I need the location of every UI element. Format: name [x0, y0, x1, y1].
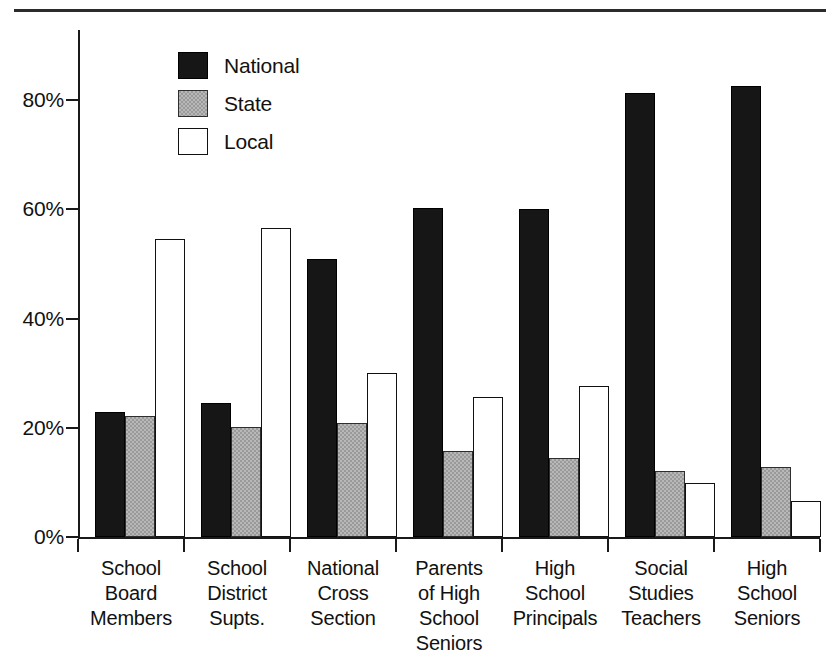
x-category-label-line: Board [78, 581, 184, 606]
legend-item-national[interactable]: National [178, 46, 299, 84]
bar-local [473, 397, 503, 537]
x-tick-mark [183, 539, 185, 552]
x-category-label-line: Seniors [396, 631, 502, 656]
legend-swatch-state-icon [178, 90, 208, 117]
bar-local [155, 239, 185, 537]
bar-national [307, 259, 337, 537]
y-tick-label-text: 40% [2, 308, 64, 329]
bar-national [95, 412, 125, 537]
bar-local [791, 501, 821, 537]
bar-state [655, 471, 685, 537]
x-category-label-line: High [714, 556, 820, 581]
y-tick-mark [66, 536, 79, 538]
x-category-label-line: Social [608, 556, 714, 581]
x-tick-mark [501, 539, 503, 552]
legend-label-state: State [224, 93, 272, 114]
x-category-label-1: SchoolDistrictSupts. [184, 556, 290, 631]
x-category-label-line: Principals [502, 606, 608, 631]
y-tick-label-text: 0% [2, 526, 64, 547]
y-tick-label-0: 0% [0, 526, 64, 547]
x-tick-mark [77, 539, 79, 552]
x-category-label-line: of High [396, 581, 502, 606]
x-category-label-line: Studies [608, 581, 714, 606]
y-tick-label-text: 20% [2, 417, 64, 438]
x-category-label-line: Members [78, 606, 184, 631]
y-tick-label-80: 80% [0, 89, 64, 110]
bar-national [519, 209, 549, 537]
legend-item-local[interactable]: Local [178, 122, 299, 160]
x-category-label-line: Parents [396, 556, 502, 581]
x-category-label-4: HighSchoolPrincipals [502, 556, 608, 631]
y-tick-label-text: 80% [2, 89, 64, 110]
y-tick-label-20: 20% [0, 417, 64, 438]
x-category-label-line: Teachers [608, 606, 714, 631]
bar-state [337, 423, 367, 537]
bar-local [579, 386, 609, 537]
x-category-label-3: Parentsof HighSchoolSeniors [396, 556, 502, 656]
legend-label-national: National [224, 55, 299, 76]
x-category-label-line: District [184, 581, 290, 606]
x-tick-mark [395, 539, 397, 552]
x-category-label-0: SchoolBoardMembers [78, 556, 184, 631]
x-category-label-line: School [714, 581, 820, 606]
x-tick-mark [819, 539, 821, 552]
bar-local [367, 373, 397, 537]
y-tick-label-60: 60% [0, 198, 64, 219]
x-tick-mark [289, 539, 291, 552]
x-tick-mark [607, 539, 609, 552]
chart-page: 0%20%40%60%80% SchoolBoardMembersSchoolD… [0, 0, 838, 657]
y-tick-mark [66, 427, 79, 429]
bar-state [549, 458, 579, 537]
legend-label-local: Local [224, 131, 273, 152]
x-category-label-line: School [396, 606, 502, 631]
x-category-label-line: Cross [290, 581, 396, 606]
x-category-label-2: NationalCrossSection [290, 556, 396, 631]
x-category-label-line: National [290, 556, 396, 581]
bar-chart-plot: 0%20%40%60%80% SchoolBoardMembersSchoolD… [0, 0, 838, 657]
bar-state [443, 451, 473, 537]
y-tick-label-40: 40% [0, 308, 64, 329]
legend-swatch-local-icon [178, 128, 208, 155]
bar-local [685, 483, 715, 537]
x-category-label-line: School [502, 581, 608, 606]
x-category-label-6: HighSchoolSeniors [714, 556, 820, 631]
x-category-label-line: Supts. [184, 606, 290, 631]
bar-national [625, 93, 655, 537]
y-axis-line [78, 30, 80, 539]
bar-national [201, 403, 231, 537]
x-category-label-5: SocialStudiesTeachers [608, 556, 714, 631]
y-tick-mark [66, 208, 79, 210]
legend-swatch-national-icon [178, 52, 208, 79]
y-tick-mark [66, 318, 79, 320]
y-tick-mark [66, 99, 79, 101]
x-category-label-line: High [502, 556, 608, 581]
x-tick-mark [713, 539, 715, 552]
x-category-label-line: School [184, 556, 290, 581]
bar-state [761, 467, 791, 537]
bar-state [231, 427, 261, 537]
x-category-label-line: Seniors [714, 606, 820, 631]
bar-local [261, 228, 291, 537]
x-axis-line [78, 537, 820, 539]
x-category-label-line: School [78, 556, 184, 581]
y-tick-label-text: 60% [2, 198, 64, 219]
x-category-label-line: Section [290, 606, 396, 631]
bar-state [125, 416, 155, 537]
chart-legend: National State Local [178, 46, 299, 160]
bar-national [413, 208, 443, 537]
legend-item-state[interactable]: State [178, 84, 299, 122]
bar-national [731, 86, 761, 537]
